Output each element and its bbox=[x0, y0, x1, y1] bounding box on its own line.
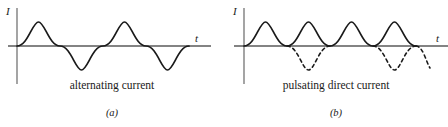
subfigure-label-b: (b) bbox=[224, 108, 448, 119]
figure-root: I t alternating current (a) I t pulsatin… bbox=[0, 0, 448, 127]
y-axis-label-b: I bbox=[233, 6, 237, 17]
panel-caption-b: pulsating direct current bbox=[224, 80, 448, 92]
x-axis-label-a: t bbox=[195, 33, 198, 44]
subfigure-label-a: (a) bbox=[0, 108, 224, 119]
panel-alternating-current: I t alternating current (a) bbox=[0, 0, 224, 127]
x-axis-label-b: t bbox=[436, 33, 439, 44]
dashed-negative-arc-1 bbox=[287, 46, 330, 70]
rectified-wave-curve bbox=[244, 22, 416, 46]
panel-pulsating-direct-current: I t pulsating direct current (b) bbox=[224, 0, 448, 127]
y-axis-label-a: I bbox=[6, 6, 10, 17]
panel-caption-a: alternating current bbox=[0, 80, 224, 92]
dashed-negative-arc-3 bbox=[416, 46, 430, 68]
dashed-negative-arc-2 bbox=[373, 46, 416, 70]
